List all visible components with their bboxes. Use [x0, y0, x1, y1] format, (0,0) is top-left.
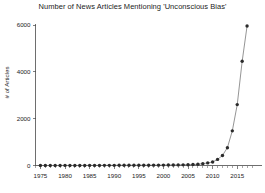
x-tick-label: 1985	[83, 172, 97, 179]
data-point	[113, 164, 116, 167]
data-point	[49, 164, 52, 167]
data-point	[181, 163, 184, 166]
x-tick-label: 2010	[206, 172, 220, 179]
data-point	[88, 164, 91, 167]
y-tick-label: 2000	[17, 115, 31, 122]
data-point	[63, 164, 66, 167]
data-point	[122, 164, 125, 167]
data-point	[108, 164, 111, 167]
data-point	[240, 60, 243, 63]
data-point	[147, 164, 150, 167]
data-point	[58, 164, 61, 167]
data-point	[157, 163, 160, 166]
data-point	[53, 164, 56, 167]
data-point	[245, 24, 248, 27]
plot-area: 0200040006000 19751980198519901995200020…	[0, 0, 265, 193]
chart-container: Number of News Articles Mentioning 'Unco…	[0, 0, 265, 193]
data-point	[132, 164, 135, 167]
data-point	[44, 164, 47, 167]
data-point	[172, 163, 175, 166]
x-tick-label: 1980	[58, 172, 72, 179]
data-point	[216, 158, 219, 161]
x-tick-label: 1975	[34, 172, 48, 179]
data-point	[127, 164, 130, 167]
data-point	[98, 164, 101, 167]
data-point	[142, 164, 145, 167]
y-tick-label: 4000	[17, 68, 31, 75]
data-point	[211, 160, 214, 163]
data-point	[93, 164, 96, 167]
data-point	[152, 163, 155, 166]
data-point	[221, 154, 224, 157]
x-tick-label: 1990	[107, 172, 121, 179]
data-point	[103, 164, 106, 167]
data-point	[162, 163, 165, 166]
data-point	[191, 163, 194, 166]
data-point	[39, 164, 42, 167]
data-point	[73, 164, 76, 167]
data-point	[186, 163, 189, 166]
data-series-line	[40, 26, 247, 166]
data-point	[206, 161, 209, 164]
data-point	[137, 164, 140, 167]
data-point	[68, 164, 71, 167]
y-axis-ticks: 0200040006000	[17, 21, 36, 169]
data-point	[167, 163, 170, 166]
data-point	[231, 129, 234, 132]
x-tick-label: 2015	[230, 172, 244, 179]
x-tick-label: 2000	[157, 172, 171, 179]
data-point	[226, 146, 229, 149]
data-point	[117, 164, 120, 167]
data-point	[196, 163, 199, 166]
y-tick-label: 0	[27, 162, 31, 169]
data-point	[201, 162, 204, 165]
data-point	[78, 164, 81, 167]
data-point	[83, 164, 86, 167]
data-point	[176, 163, 179, 166]
y-tick-label: 6000	[17, 21, 31, 28]
data-series-markers	[39, 24, 249, 167]
x-tick-label: 2005	[181, 172, 195, 179]
x-tick-label: 1995	[132, 172, 146, 179]
data-point	[236, 103, 239, 106]
x-axis-ticks: 197519801985199019952000200520102015	[34, 166, 245, 179]
